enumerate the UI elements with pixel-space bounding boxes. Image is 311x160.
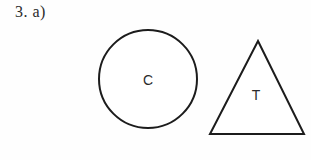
triangle-letter-label: T	[252, 87, 261, 103]
shapes-canvas: C T	[0, 0, 311, 160]
circle-letter-label: C	[143, 72, 153, 88]
worksheet-figure-panel: 3. a) C T	[0, 0, 311, 160]
